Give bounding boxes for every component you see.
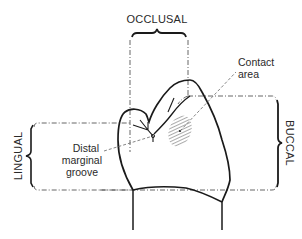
lingual-guide-top	[34, 123, 130, 127]
buccal-guide-top	[188, 96, 276, 100]
occlusal-brace	[132, 29, 186, 37]
buccal-guide-inner	[178, 96, 188, 104]
contact-area-label-line2: area	[238, 68, 259, 80]
tooth-diagram: OCCLUSAL BUCCAL LINGUAL Contact area Dis…	[0, 0, 302, 239]
buccal-brace	[277, 100, 282, 187]
occlusal-label: OCCLUSAL	[127, 13, 188, 25]
cervical-line	[133, 187, 222, 202]
contact-area-label-line1: Contact	[238, 56, 274, 68]
distal-groove-leader	[104, 136, 153, 151]
distal-label-line3: groove	[66, 166, 98, 178]
buccal-label: BUCCAL	[284, 120, 296, 166]
lingual-brace	[26, 125, 33, 187]
lingual-guide-bottom	[34, 186, 133, 190]
distal-label-line1: Distal	[73, 142, 99, 154]
distal-label-line2: marginal	[62, 154, 102, 166]
lingual-label: LINGUAL	[12, 132, 24, 180]
cusp-ridge-short	[168, 98, 174, 112]
